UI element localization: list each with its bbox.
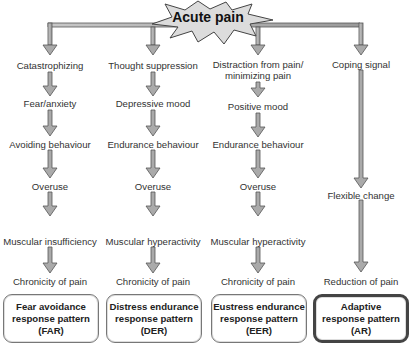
step-fear-anxiety: Fear/anxiety [24,98,77,109]
pattern-box-der: Distress endurance response pattern (DER… [106,294,202,343]
pattern-name: Distress endurance [109,301,198,313]
step-muscular-hyperactivity: Muscular hyperactivity [106,236,201,247]
step-endurance-behaviour: Endurance behaviour [107,139,198,150]
pattern-box-ar: Adaptive response pattern (AR) [313,294,409,343]
step-coping-signal: Coping signal [332,59,390,70]
pattern-subtitle: response pattern [12,313,90,325]
step-overuse: Overuse [135,181,171,192]
pattern-name: Eustress endurance [213,301,305,313]
step-thought-suppression: Thought suppression [108,60,198,71]
step-flexible-change: Flexible change [327,190,394,201]
acute-pain-label: Acute pain [172,9,244,25]
pattern-box-far: Fear avoidance response pattern (FAR) [3,294,99,343]
step-chronicity: Chronicity of pain [221,276,295,287]
pattern-abbrev: (AR) [322,325,400,337]
step-muscular-insufficiency: Muscular insufficiency [3,236,97,247]
pattern-box-eer: Eustress endurance response pattern (EER… [211,294,307,343]
pattern-subtitle: response pattern [213,313,305,325]
pattern-subtitle: response pattern [109,313,198,325]
step-catastrophizing: Catastrophizing [17,60,84,71]
pattern-name: Fear avoidance [12,301,90,313]
step-overuse: Overuse [32,181,68,192]
step-depressive-mood: Depressive mood [116,98,191,109]
step-muscular-hyperactivity: Muscular hyperactivity [211,236,306,247]
pattern-abbrev: (EER) [213,325,305,337]
pattern-subtitle: response pattern [322,313,400,325]
step-chronicity: Chronicity of pain [116,276,190,287]
step-minimizing-pain: minimizing pain [225,70,291,81]
step-endurance-behaviour: Endurance behaviour [212,139,303,150]
step-positive-mood: Positive mood [228,101,288,112]
step-overuse: Overuse [240,181,276,192]
step-avoiding-behaviour: Avoiding behaviour [9,139,90,150]
pattern-abbrev: (FAR) [12,325,90,337]
step-chronicity: Chronicity of pain [13,276,87,287]
step-distraction: Distraction from pain/ [213,59,304,70]
pattern-name: Adaptive [322,301,400,313]
pattern-abbrev: (DER) [109,325,198,337]
step-reduction-of-pain: Reduction of pain [324,276,399,287]
